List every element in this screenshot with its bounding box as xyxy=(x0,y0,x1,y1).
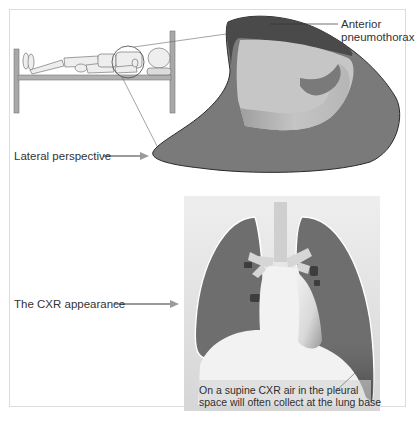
illustration xyxy=(0,0,416,429)
patient-icon xyxy=(23,48,171,75)
zoom-line-bottom xyxy=(122,77,158,148)
lateral-perspective-label: Lateral perspective xyxy=(14,150,111,163)
anterior-label-line2: pneumothorax xyxy=(341,31,415,44)
anterior-label-line1: Anterior xyxy=(341,18,415,31)
zoom-line-top xyxy=(134,34,226,47)
cxr-panel xyxy=(184,196,380,411)
caption-line2: space will often collect at the lung bas… xyxy=(199,396,381,408)
caption-line1: On a supine CXR air in the pleural xyxy=(199,384,381,396)
cxr-caption: On a supine CXR air in the pleural space… xyxy=(199,384,381,408)
cxr-appearance-label: The CXR appearance xyxy=(14,298,125,311)
anterior-pneumothorax-label: Anterior pneumothorax xyxy=(341,18,415,44)
